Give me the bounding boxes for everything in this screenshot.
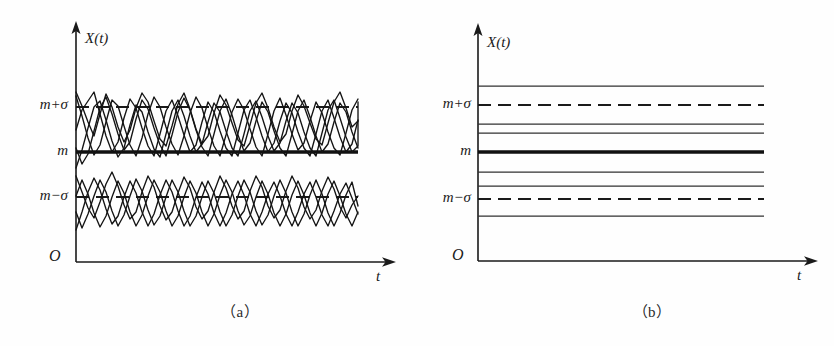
tick-label-m-plus-sigma-a: m+σ (14, 97, 68, 112)
tick-label-m-plus-sigma-b: m+σ (417, 96, 471, 111)
figure-root: m+σ m m−σ O X(t) t （a） (0, 0, 834, 346)
panel-a-caption: （a） (200, 300, 280, 321)
x-axis-label-a: t (376, 269, 380, 284)
y-axis-b (474, 23, 483, 261)
origin-label-b: O (452, 247, 464, 263)
panel-a: m+σ m m−σ O X(t) t （a） (0, 0, 417, 346)
sample-realizations-a (76, 92, 358, 230)
tick-label-m-b: m (417, 143, 471, 158)
x-axis-a (76, 257, 396, 267)
panel-b-caption: （b） (612, 300, 692, 321)
tick-label-m-minus-sigma-b: m−σ (417, 190, 471, 205)
tick-label-m-minus-sigma-a: m−σ (14, 188, 68, 203)
panel-b-plot (417, 0, 834, 300)
panel-b: m+σ m m−σ O X(t) t （b） (417, 0, 834, 346)
realization-1 (76, 92, 358, 146)
tick-label-m-a: m (14, 143, 68, 158)
y-axis-a (72, 21, 81, 262)
y-axis-label-b: X(t) (487, 35, 510, 50)
y-axis-label-a: X(t) (85, 31, 108, 46)
origin-label-a: O (49, 248, 61, 264)
x-axis-b (478, 256, 818, 266)
x-axis-label-b: t (797, 268, 801, 283)
